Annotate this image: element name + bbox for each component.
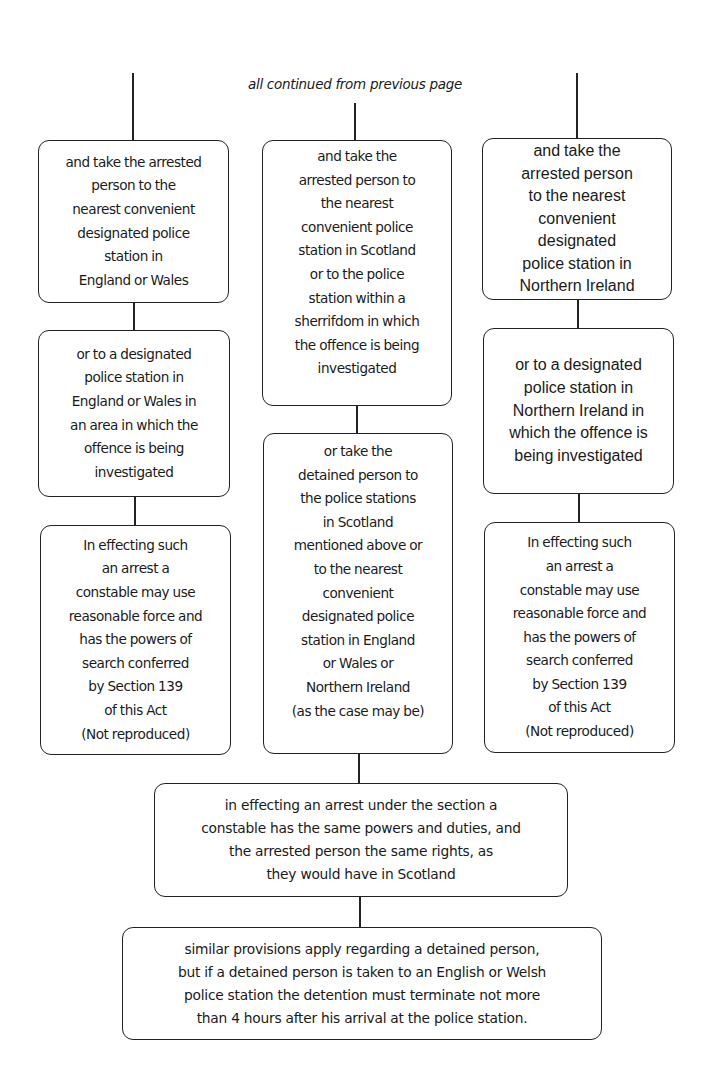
continued-note: all continued from previous page xyxy=(0,76,710,92)
box-northern-ireland-designated: or to a designated police station in Nor… xyxy=(483,328,674,494)
box-scotland-take-arrested: and take the arrested person to the near… xyxy=(262,140,452,406)
flowchart-diagram: all continued from previous page and tak… xyxy=(0,0,710,1072)
box-text: and take the arrested person to the near… xyxy=(295,145,420,381)
box-same-powers-scotland: in effecting an arrest under the section… xyxy=(154,783,568,897)
connector-middle-to-merged xyxy=(358,753,360,784)
connector-middle-incoming xyxy=(354,103,356,141)
box-england-wales-reasonable-force: In effecting such an arrest a constable … xyxy=(40,525,231,755)
box-scotland-take-detained: or take the detained person to the polic… xyxy=(263,433,453,754)
connector-right-2-3 xyxy=(578,493,580,523)
box-northern-ireland-reasonable-force: In effecting such an arrest a constable … xyxy=(484,522,675,753)
connector-merged-1-2 xyxy=(359,896,361,928)
box-england-wales-take-arrested: and take the arrested person to the near… xyxy=(38,140,229,303)
connector-left-2-3 xyxy=(134,496,136,526)
box-text: or to a designated police station in Nor… xyxy=(509,354,648,468)
box-northern-ireland-take-arrested: and take the arrested person to the near… xyxy=(482,138,672,300)
connector-right-incoming xyxy=(576,73,578,139)
box-text: similar provisions apply regarding a det… xyxy=(178,938,546,1030)
box-text: or take the detained person to the polic… xyxy=(292,440,424,723)
box-text: in effecting an arrest under the section… xyxy=(201,794,521,886)
connector-middle-1-2 xyxy=(356,405,358,434)
box-text: or to a designated police station in Eng… xyxy=(70,343,198,485)
connector-right-1-2 xyxy=(577,299,579,329)
box-similar-provisions-detained: similar provisions apply regarding a det… xyxy=(122,927,602,1040)
box-text: In effecting such an arrest a constable … xyxy=(513,531,647,743)
box-text: and take the arrested person to the near… xyxy=(519,140,634,298)
box-england-wales-designated-area: or to a designated police station in Eng… xyxy=(38,330,230,497)
connector-left-1-2 xyxy=(133,302,135,331)
box-text: In effecting such an arrest a constable … xyxy=(69,534,203,746)
box-text: and take the arrested person to the near… xyxy=(65,151,201,293)
connector-left-incoming xyxy=(132,73,134,141)
